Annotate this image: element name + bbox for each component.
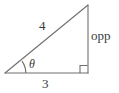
hypotenuse-line	[5, 5, 88, 73]
right-angle-marker-icon	[80, 66, 88, 74]
theta-angle-label: θ	[29, 58, 35, 70]
triangle-figure: 4 3 opp θ	[0, 0, 119, 93]
angle-arc-icon	[22, 61, 26, 73]
adjacent-label: 3	[42, 77, 49, 90]
hypotenuse-label: 4	[39, 19, 46, 32]
triangle-drawing	[0, 0, 119, 93]
opposite-label: opp	[91, 29, 111, 42]
